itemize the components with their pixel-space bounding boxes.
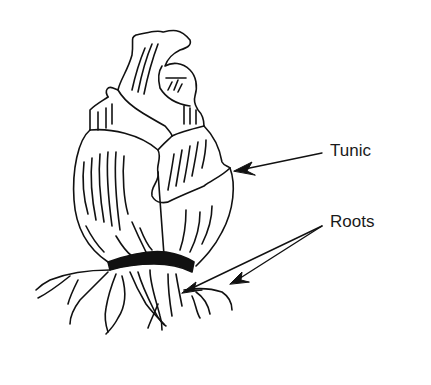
bulb-diagram: Tunic Roots <box>0 0 431 385</box>
tunic-arrow <box>234 153 322 175</box>
basal-plate <box>108 251 194 272</box>
bulb-collar <box>90 90 204 136</box>
roots-label: Roots <box>330 213 374 230</box>
bulb-roots <box>36 270 232 334</box>
bulb-illustration <box>0 0 431 385</box>
tunic-label: Tunic <box>330 142 371 159</box>
bulb-tunic <box>74 126 234 266</box>
